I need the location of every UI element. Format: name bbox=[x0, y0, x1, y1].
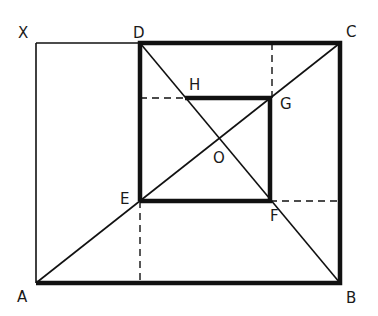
diagonal-db bbox=[140, 43, 340, 283]
label-h: H bbox=[189, 76, 200, 94]
diagram-svg: X D C A B H G E F O bbox=[0, 0, 378, 316]
label-b: B bbox=[346, 289, 356, 307]
label-f: F bbox=[270, 207, 279, 225]
geometry-diagram: X D C A B H G E F O bbox=[0, 0, 378, 316]
label-e: E bbox=[120, 190, 129, 208]
label-x: X bbox=[18, 24, 28, 42]
label-c: C bbox=[346, 23, 356, 41]
label-o: O bbox=[213, 149, 225, 167]
label-d: D bbox=[133, 24, 145, 42]
diagonal-ac bbox=[36, 43, 340, 283]
label-g: G bbox=[280, 95, 292, 113]
label-a: A bbox=[17, 288, 28, 306]
